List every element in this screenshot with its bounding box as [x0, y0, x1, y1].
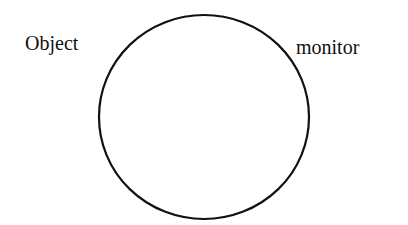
object-label: Object [25, 33, 78, 53]
monitor-label: monitor [296, 37, 359, 57]
circle-shape [99, 15, 309, 219]
